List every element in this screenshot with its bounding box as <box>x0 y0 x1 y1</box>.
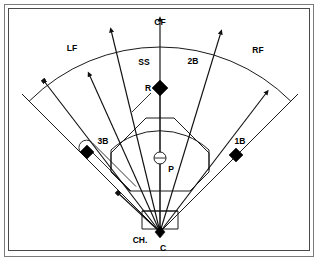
label-ss: SS <box>138 57 150 67</box>
third-base-lane-inner <box>89 149 132 192</box>
third-base-marker <box>80 145 94 159</box>
first-base-marker <box>229 148 243 162</box>
label-1b: 1B <box>235 136 246 146</box>
field-svg-canvas: LF CF RF SS 2B 3B 1B R P C CH. <box>0 0 318 261</box>
label-3b: 3B <box>98 136 109 146</box>
label-r: R <box>145 83 151 93</box>
label-rf: RF <box>252 45 263 55</box>
label-c: C <box>160 243 166 253</box>
label-ch: CH. <box>133 235 148 245</box>
label-lf: LF <box>67 43 77 53</box>
frame-inner-border <box>9 9 310 251</box>
runner-leader-line <box>132 93 151 112</box>
label-cf: CF <box>154 17 165 27</box>
label-p: P <box>168 164 174 174</box>
label-2b: 2B <box>188 56 199 66</box>
throw-to-rf-mid <box>160 92 267 232</box>
second-base-marker <box>152 80 168 96</box>
baseball-field-diagram: LF CF RF SS 2B 3B 1B R P C CH. <box>0 0 318 261</box>
throw-down-third-line <box>118 193 160 232</box>
